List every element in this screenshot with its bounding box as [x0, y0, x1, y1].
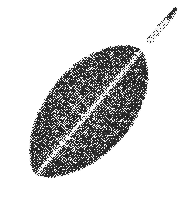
- leaf-halftone-canvas: [0, 0, 196, 204]
- leaf-figure: Single elliptical leaf specimen, halfton…: [0, 0, 196, 204]
